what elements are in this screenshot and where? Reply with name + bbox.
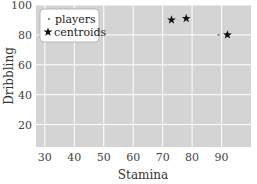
x-tick-label: 70 <box>156 151 170 164</box>
x-axis-label: Stamina <box>118 168 168 182</box>
x-axis-ticks: 30405060708090 <box>38 151 229 164</box>
x-tick-label: 90 <box>215 151 229 164</box>
scatter-chart: 30405060708090 20406080100 Stamina Dribb… <box>0 0 257 184</box>
legend: players centroids <box>40 9 107 42</box>
legend-players-marker-icon <box>48 18 50 20</box>
x-tick-label: 50 <box>97 151 111 164</box>
y-tick-label: 20 <box>18 119 32 132</box>
y-tick-label: 100 <box>11 0 32 12</box>
y-tick-label: 60 <box>18 59 32 72</box>
x-tick-label: 30 <box>38 151 52 164</box>
legend-players-label: players <box>55 13 96 26</box>
y-tick-label: 80 <box>18 29 32 42</box>
x-tick-label: 60 <box>126 151 140 164</box>
legend-centroids-label: centroids <box>54 26 107 39</box>
x-tick-label: 40 <box>67 151 81 164</box>
player-point <box>217 34 219 36</box>
x-tick-label: 80 <box>185 151 199 164</box>
y-axis-label: Dribbling <box>2 47 16 105</box>
y-tick-label: 40 <box>18 89 32 102</box>
